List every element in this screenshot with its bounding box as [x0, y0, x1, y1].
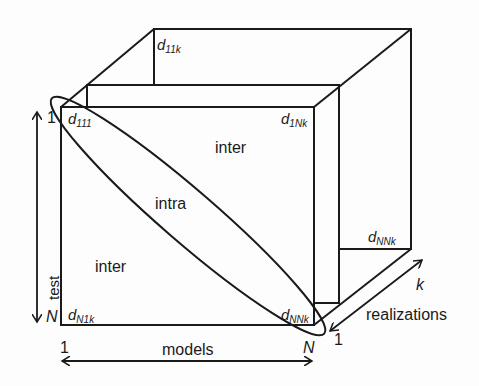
depth-edge-top-right	[314, 29, 411, 107]
realizations-axis-end: k	[416, 276, 425, 293]
cube-diagram: d11k d111 d1Nk dNNk dNNk dN1k inter intr…	[0, 0, 479, 386]
models-axis-end: N	[303, 339, 315, 356]
region-inter-upper: inter	[215, 139, 247, 156]
region-inter-lower: inter	[95, 258, 127, 275]
label-dNNk-front: dNNk	[281, 306, 310, 325]
models-axis-start: 1	[60, 339, 69, 356]
models-axis-label: models	[162, 341, 214, 358]
test-axis-start: 1	[47, 109, 56, 126]
label-d11k: d11k	[157, 36, 182, 55]
realizations-axis-start: 1	[334, 331, 343, 348]
front-face	[61, 107, 314, 325]
label-d1Nk: d1Nk	[281, 110, 308, 129]
depth-edge-top-left	[61, 29, 154, 107]
region-intra: intra	[155, 195, 186, 212]
realizations-axis-label: realizations	[366, 306, 447, 323]
diagram-canvas: d11k d111 d1Nk dNNk dNNk dN1k inter intr…	[0, 0, 479, 386]
test-axis-end: N	[46, 308, 58, 325]
label-dNNk-back: dNNk	[368, 228, 397, 247]
label-d111: d111	[68, 110, 92, 129]
back-face	[154, 29, 411, 249]
test-axis-label: test	[45, 275, 62, 300]
label-dN1k: dN1k	[68, 306, 95, 325]
